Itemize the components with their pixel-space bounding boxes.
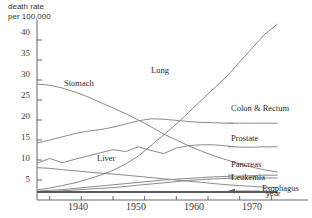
y-tick-5: 5 bbox=[8, 174, 30, 184]
x-tick-1950: 1950 bbox=[116, 201, 156, 212]
series-label-liver: Liver bbox=[97, 153, 115, 163]
x-tick-1940: 1940 bbox=[58, 201, 98, 212]
y-tick-35: 35 bbox=[8, 48, 30, 58]
y-tick-40: 40 bbox=[8, 27, 30, 37]
series-label-lung: Lung bbox=[151, 65, 169, 75]
x-tick-1960: 1960 bbox=[174, 201, 214, 212]
series-label-esophagus: Esophagus bbox=[262, 183, 299, 193]
series-label-prostate: Prostate bbox=[231, 133, 258, 143]
series-label-pancreas: Pancreas bbox=[231, 159, 261, 169]
y-tick-30: 30 bbox=[8, 69, 30, 79]
y-tick-25: 25 bbox=[8, 90, 30, 100]
x-tick-1970: 1970 bbox=[232, 201, 272, 212]
y-tick-15: 15 bbox=[8, 132, 30, 142]
y-tick-20: 20 bbox=[8, 111, 30, 121]
series-label-colon-rectum: Colon & Rectum bbox=[231, 103, 289, 113]
series-label-stomach: Stomach bbox=[64, 78, 94, 88]
y-tick-10: 10 bbox=[8, 153, 30, 163]
chart-root: death rateper 100,000 40 35 30 25 20 15 … bbox=[0, 0, 312, 218]
series-label-leukemia: Leukemia bbox=[231, 172, 265, 182]
